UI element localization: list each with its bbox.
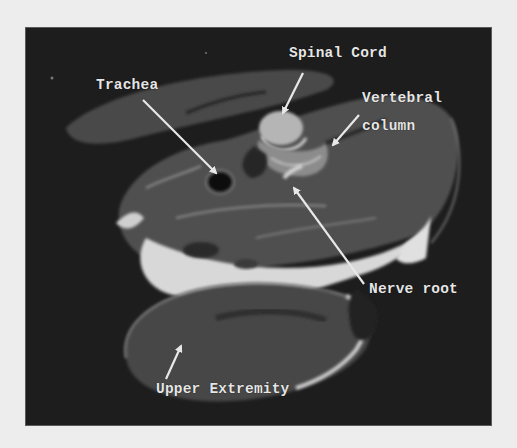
label-vertebral-column: Vertebral column	[362, 91, 442, 133]
figure-page: Spinal Cord Trachea Vertebral column Ner…	[0, 0, 517, 448]
trachea-structure	[206, 170, 234, 194]
label-trachea: Trachea	[96, 78, 158, 93]
label-spinal-cord: Spinal Cord	[289, 46, 387, 61]
label-vertebral-column-line1: Vertebral	[362, 91, 442, 106]
speck	[51, 77, 54, 80]
label-vertebral-column-line2: column	[362, 119, 442, 134]
label-upper-extremity: Upper Extremity	[156, 382, 290, 397]
mri-image-frame: Spinal Cord Trachea Vertebral column Ner…	[25, 27, 492, 426]
label-nerve-root: Nerve root	[369, 282, 458, 297]
speck	[205, 52, 207, 54]
